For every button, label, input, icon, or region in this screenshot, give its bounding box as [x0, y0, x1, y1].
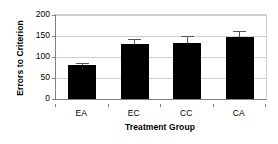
- plot-area: [55, 14, 267, 100]
- x-tick-mark: [265, 104, 266, 107]
- y-tick-mark: [52, 78, 56, 79]
- x-tick-mark: [108, 104, 109, 107]
- x-tick-label: CA: [219, 108, 259, 118]
- error-bar-cap: [233, 31, 246, 32]
- bar-group: [226, 15, 254, 99]
- error-bar-cap: [181, 36, 194, 37]
- bar: [68, 65, 96, 99]
- y-axis-tick-labels: 050100150200: [22, 14, 50, 98]
- y-tick-label: 0: [45, 93, 50, 103]
- x-tick-label: CC: [166, 108, 206, 118]
- x-tick-mark: [213, 104, 214, 107]
- error-bar-cap: [76, 63, 89, 64]
- y-tick-label: 50: [41, 72, 50, 82]
- bar-series: [56, 15, 266, 99]
- error-bar-cap: [128, 39, 141, 40]
- y-tick-label: 100: [36, 51, 50, 61]
- x-axis-title: Treatment Group: [55, 122, 265, 132]
- x-axis-tick-labels: EAECCCCA: [55, 104, 265, 118]
- x-tick-label: EC: [114, 108, 154, 118]
- bar: [173, 43, 201, 99]
- y-tick-mark: [52, 36, 56, 37]
- x-tick-label: EA: [61, 108, 101, 118]
- bar-group: [121, 15, 149, 99]
- y-tick-mark: [52, 99, 56, 100]
- y-tick-mark: [52, 57, 56, 58]
- bar-group: [173, 15, 201, 99]
- bar-chart-figure: Errors to Criterion 050100150200 EAECCCC…: [0, 0, 278, 144]
- error-bar-stem: [187, 36, 188, 43]
- x-tick-mark: [55, 104, 56, 107]
- y-tick-label: 150: [36, 30, 50, 40]
- y-tick-mark: [52, 15, 56, 16]
- bar-group: [68, 15, 96, 99]
- x-tick-mark: [160, 104, 161, 107]
- bar: [226, 37, 254, 99]
- bar: [121, 44, 149, 99]
- y-tick-label: 200: [36, 9, 50, 19]
